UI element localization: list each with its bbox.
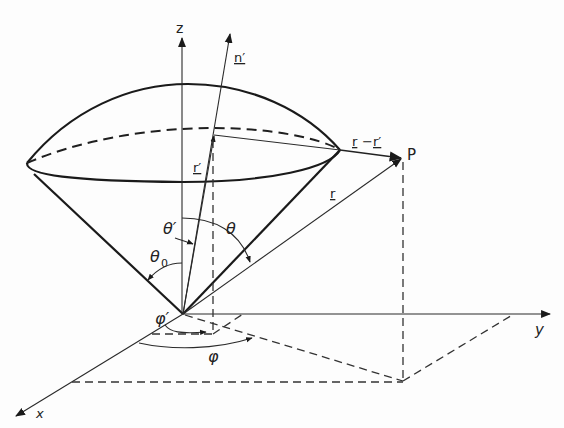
floor-y-parallel-dashed bbox=[403, 314, 514, 381]
r-minus-r-prime-label: r − r′ bbox=[352, 134, 381, 149]
diagram-canvas: z y x n′ r′ r r − r′ P θ 0 θ′ θ φ′ φ bbox=[0, 0, 564, 428]
r-minus-r-prime-vector bbox=[340, 150, 401, 158]
phi-label: φ bbox=[208, 347, 219, 366]
x-axis-label: x bbox=[35, 406, 44, 421]
cone-rim-front bbox=[27, 150, 340, 182]
theta-prime-arc bbox=[175, 238, 193, 244]
phi-arc bbox=[139, 338, 252, 348]
phi-prime-arc bbox=[165, 325, 206, 333]
y-axis-label: y bbox=[534, 321, 545, 339]
r-minus-r-prime-label-rprime: r′ bbox=[373, 134, 381, 149]
cone-left-side bbox=[34, 174, 183, 314]
cone-geometry-svg: z y x n′ r′ r r − r′ P θ 0 θ′ θ φ′ φ bbox=[0, 0, 564, 428]
r-label: r bbox=[330, 186, 336, 201]
cone-top-arc bbox=[27, 84, 340, 163]
theta-label: θ bbox=[226, 219, 236, 238]
phi-prime-label: φ′ bbox=[155, 309, 170, 328]
r-prime-label: r′ bbox=[193, 160, 201, 175]
cone-rim-back-dashed bbox=[27, 128, 340, 163]
theta-0-label-symbol: θ bbox=[150, 247, 160, 266]
theta-prime-label: θ′ bbox=[163, 219, 177, 238]
r-minus-r-prime-label-r: r bbox=[352, 134, 358, 149]
r-minus-r-prime-label-minus: − bbox=[362, 134, 373, 149]
point-p-label: P bbox=[407, 146, 416, 164]
theta-0-label-subscript: 0 bbox=[161, 257, 168, 270]
n-prime-label: n′ bbox=[234, 50, 245, 65]
theta-0-label: θ 0 bbox=[150, 247, 168, 270]
rim-chord bbox=[214, 135, 340, 150]
z-axis-label: z bbox=[176, 20, 183, 36]
x-axis bbox=[16, 314, 183, 416]
